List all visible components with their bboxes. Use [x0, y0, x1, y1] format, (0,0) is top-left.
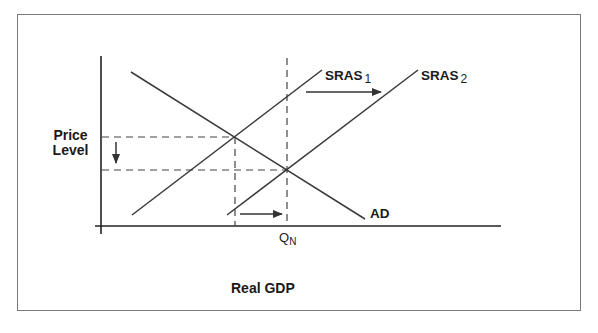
x-axis-label: Real GDP — [231, 281, 295, 295]
sras1-subscript: 1 — [365, 72, 372, 86]
qn-label-text: Q — [279, 230, 289, 245]
y-axis-label-line2: Level — [48, 143, 93, 158]
sras1-label: SRAS1 — [325, 69, 371, 85]
sras2-label-text: SRAS — [421, 68, 459, 83]
sras1-label-text: SRAS — [325, 68, 363, 83]
as-ad-diagram — [0, 0, 598, 333]
qn-subscript: N — [289, 236, 296, 247]
y-axis-label: Price Level — [48, 128, 93, 158]
y-axis-label-line1: Price — [48, 128, 93, 143]
qn-label: QN — [279, 231, 296, 247]
sras1-curve — [132, 70, 322, 215]
sras2-label: SRAS2 — [421, 69, 467, 85]
ad-curve — [131, 72, 365, 219]
ad-label: AD — [370, 207, 390, 221]
sras2-subscript: 2 — [461, 72, 468, 86]
